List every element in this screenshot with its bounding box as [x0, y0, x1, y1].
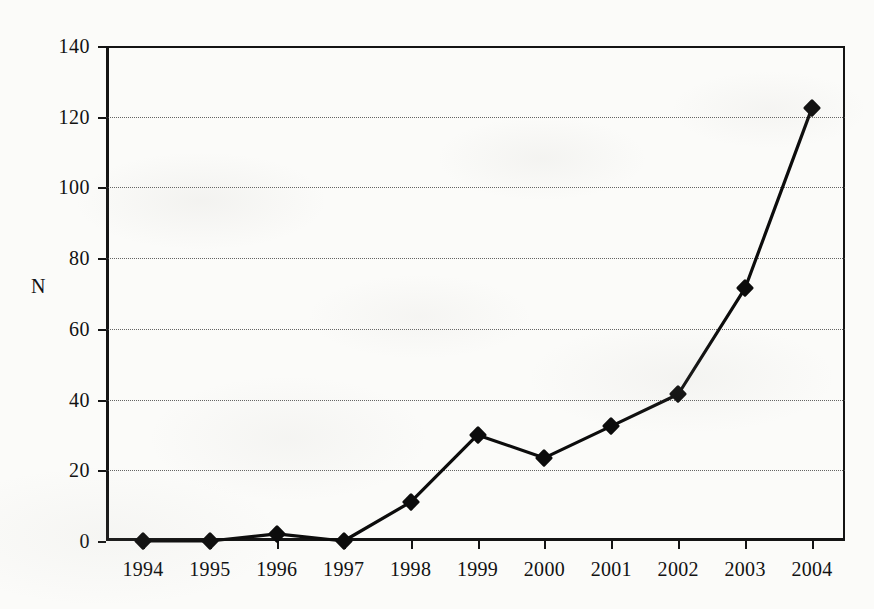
x-axis-tick-label: 1995	[175, 559, 245, 579]
x-axis-tick-label: 2003	[710, 559, 780, 579]
x-axis-tick-label: 1998	[376, 559, 446, 579]
y-axis-tick-label: 80	[28, 248, 90, 268]
x-axis-tick-label: 2002	[643, 559, 713, 579]
y-axis-tick-mark	[98, 258, 106, 260]
y-axis-tick-mark	[98, 117, 106, 119]
gridline	[106, 470, 845, 471]
x-axis-tick-label: 1996	[242, 559, 312, 579]
x-axis-tick-label: 2000	[509, 559, 579, 579]
y-axis-tick-mark	[98, 187, 106, 189]
x-axis-tick-mark	[411, 541, 413, 549]
y-axis-tick-mark	[98, 470, 106, 472]
x-axis-tick-label: 2001	[576, 559, 646, 579]
y-axis-tick-label: 140	[28, 36, 90, 56]
y-axis-label: N	[31, 276, 45, 296]
x-axis-tick-mark	[812, 541, 814, 549]
gridline	[106, 187, 845, 188]
x-axis-tick-label: 2004	[777, 559, 847, 579]
gridline	[106, 329, 845, 330]
gridline	[106, 400, 845, 401]
y-axis-tick-mark	[98, 46, 106, 48]
x-axis-tick-label: 1994	[108, 559, 178, 579]
plot-area	[106, 46, 845, 541]
y-axis-tick-label: 40	[28, 390, 90, 410]
x-axis-tick-mark	[611, 541, 613, 549]
y-axis-tick-label: 60	[28, 319, 90, 339]
chart-page: N 020406080100120140 1994199519961997199…	[0, 0, 874, 609]
y-axis-tick-mark	[98, 329, 106, 331]
y-axis-tick-label: 100	[28, 177, 90, 197]
x-axis-tick-label: 1999	[443, 559, 513, 579]
x-axis-tick-mark	[745, 541, 747, 549]
gridline	[106, 117, 845, 118]
gridline	[106, 258, 845, 259]
x-axis-tick-mark	[544, 541, 546, 549]
y-axis-tick-mark	[98, 541, 106, 543]
y-axis-tick-label: 0	[28, 531, 90, 551]
y-axis-tick-label: 20	[28, 460, 90, 480]
y-axis-tick-mark	[98, 400, 106, 402]
x-axis-tick-mark	[478, 541, 480, 549]
x-axis-tick-mark	[678, 541, 680, 549]
y-axis-tick-label: 120	[28, 107, 90, 127]
x-axis-tick-label: 1997	[309, 559, 379, 579]
